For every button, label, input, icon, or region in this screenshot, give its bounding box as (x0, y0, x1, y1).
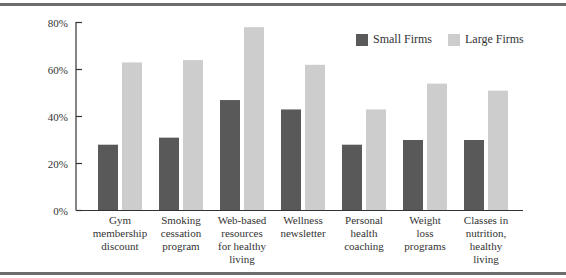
small-firms-bar (220, 100, 240, 210)
small-firms-bar (464, 140, 484, 211)
y-tick-label: 60% (28, 64, 68, 76)
small-firms-bar (281, 109, 301, 210)
large-firms-swatch (448, 34, 460, 46)
small-firms-bar (342, 145, 362, 211)
small-firms-bar (98, 145, 118, 211)
legend-label-small-firms: Small Firms (373, 32, 432, 47)
large-firms-bar (366, 109, 386, 210)
legend-item-large-firms: Large Firms (448, 32, 524, 47)
bars-group (98, 27, 508, 210)
x-category-label: Wellnessnewsletter (268, 214, 338, 240)
large-firms-bar (427, 84, 447, 211)
x-category-label: Gymmembershipdiscount (85, 214, 155, 253)
x-category-label: Web-basedresourcesfor healthyliving (207, 214, 277, 266)
y-tick-label: 0% (28, 205, 68, 217)
small-firms-swatch (356, 34, 368, 46)
legend-label-large-firms: Large Firms (465, 32, 524, 47)
small-firms-bar (159, 138, 179, 211)
y-tick-label: 40% (28, 111, 68, 123)
large-firms-bar (122, 62, 142, 210)
large-firms-bar (244, 27, 264, 210)
y-ticks (76, 23, 82, 211)
small-firms-bar (403, 140, 423, 211)
x-category-label: Personalhealthcoaching (329, 214, 399, 253)
x-category-label: Weightlossprograms (390, 214, 460, 253)
x-category-label: Smokingcessationprogram (146, 214, 216, 253)
y-tick-label: 80% (28, 17, 68, 29)
large-firms-bar (488, 91, 508, 211)
x-category-label: Classes innutrition,healthyliving (451, 214, 521, 266)
large-firms-bar (183, 60, 203, 210)
large-firms-bar (305, 65, 325, 211)
legend-item-small-firms: Small Firms (356, 32, 432, 47)
y-tick-label: 20% (28, 158, 68, 170)
legend: Small Firms Large Firms (356, 32, 540, 47)
